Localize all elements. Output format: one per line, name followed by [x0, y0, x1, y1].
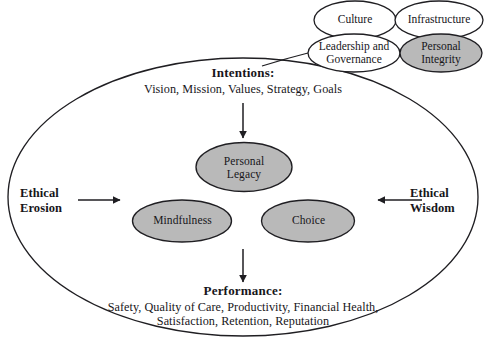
ethical-erosion-line2: Erosion: [20, 201, 78, 216]
intentions-heading: Intentions:: [143, 66, 343, 81]
ethical-wisdom-line2: Wisdom: [410, 201, 476, 216]
ethical-wisdom-line1: Ethical: [410, 186, 476, 201]
context-infrastructure-line1: Infrastructure: [408, 13, 471, 25]
intentions-detail: Vision, Mission, Values, Strategy, Goals: [108, 83, 378, 97]
core-node-mindfulness-label: Mindfulness: [133, 214, 232, 227]
context-culture-line1: Culture: [338, 13, 373, 25]
ethical-wisdom-label: Ethical Wisdom: [410, 186, 476, 216]
diagram-canvas: Culture Infrastructure Leadership and Go…: [0, 0, 490, 348]
context-leadership-line2: Governance: [308, 53, 400, 66]
performance-detail-line2: Satisfaction, Retention, Reputation: [113, 315, 373, 329]
context-personal-integrity-line2: Integrity: [401, 53, 481, 66]
core-personal-legacy-line1: Personal: [196, 155, 292, 168]
performance-detail-line1: Safety, Quality of Care, Productivity, F…: [73, 301, 413, 315]
core-node-personal-legacy-label: Personal Legacy: [196, 155, 292, 181]
context-node-culture-label: Culture: [315, 13, 395, 26]
core-mindfulness-line1: Mindfulness: [153, 214, 212, 226]
performance-heading: Performance:: [143, 284, 343, 299]
core-node-choice-label: Choice: [262, 214, 355, 227]
context-personal-integrity-line1: Personal: [401, 40, 481, 53]
context-leadership-line1: Leadership and: [308, 40, 400, 53]
core-choice-line1: Choice: [292, 214, 325, 226]
core-personal-legacy-line2: Legacy: [196, 168, 292, 181]
ethical-erosion-line1: Ethical: [20, 186, 78, 201]
ethical-erosion-label: Ethical Erosion: [20, 186, 78, 216]
context-node-leadership-label: Leadership and Governance: [308, 40, 400, 66]
context-node-personal-integrity-label: Personal Integrity: [401, 40, 481, 66]
context-node-infrastructure-label: Infrastructure: [396, 13, 482, 26]
